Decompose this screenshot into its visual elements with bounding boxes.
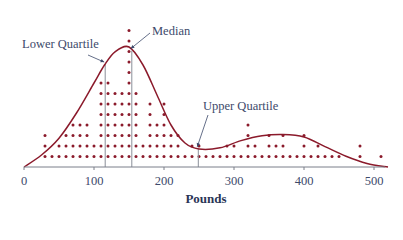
data-dot <box>65 145 68 148</box>
data-dot <box>100 82 103 85</box>
data-dot <box>100 103 103 106</box>
data-dot <box>177 145 180 148</box>
data-dot <box>107 134 110 137</box>
data-dot <box>240 155 243 158</box>
data-dot <box>247 124 250 127</box>
median-label: Median <box>152 24 190 39</box>
data-dot <box>282 145 285 148</box>
data-dot <box>107 155 110 158</box>
x-tick-label: 500 <box>365 174 384 189</box>
data-dot <box>163 145 166 148</box>
data-dot <box>65 155 68 158</box>
annotation-arrow-line <box>197 115 208 147</box>
data-dot <box>219 155 222 158</box>
data-dot <box>303 145 306 148</box>
data-dot <box>149 145 152 148</box>
data-dot <box>380 155 383 158</box>
data-dot <box>72 124 75 127</box>
data-dot <box>79 134 82 137</box>
data-dot <box>212 155 215 158</box>
data-dot <box>100 124 103 127</box>
data-dot <box>114 113 117 116</box>
data-dot <box>128 50 131 53</box>
data-dot <box>317 145 320 148</box>
data-dot <box>163 124 166 127</box>
data-dot <box>233 145 236 148</box>
data-dot <box>156 145 159 148</box>
data-dot <box>79 124 82 127</box>
x-tick-label: 100 <box>85 174 104 189</box>
data-dot <box>93 155 96 158</box>
data-dot <box>156 155 159 158</box>
data-dot <box>226 155 229 158</box>
data-dot <box>317 155 320 158</box>
data-dot <box>121 92 124 95</box>
data-dot <box>170 145 173 148</box>
x-axis-label: Pounds <box>185 191 226 207</box>
data-dot <box>135 134 138 137</box>
data-dot <box>79 155 82 158</box>
data-dot <box>114 134 117 137</box>
data-dot <box>128 40 131 43</box>
data-dot <box>135 103 138 106</box>
data-dot <box>72 155 75 158</box>
data-dot <box>107 82 110 85</box>
data-dot <box>65 134 68 137</box>
data-dot <box>107 103 110 106</box>
data-dot <box>86 155 89 158</box>
data-dot <box>128 155 131 158</box>
data-dot <box>163 103 166 106</box>
data-dot <box>247 145 250 148</box>
data-dot <box>51 155 54 158</box>
data-dot <box>100 113 103 116</box>
data-dot <box>86 145 89 148</box>
data-dot <box>121 124 124 127</box>
data-dot <box>142 145 145 148</box>
data-dot <box>170 134 173 137</box>
data-dot <box>331 155 334 158</box>
data-dot <box>128 124 131 127</box>
data-dot <box>100 155 103 158</box>
data-dot <box>303 155 306 158</box>
data-dot <box>275 155 278 158</box>
data-dot <box>121 113 124 116</box>
data-dot <box>128 103 131 106</box>
data-dot <box>107 145 110 148</box>
data-dot <box>128 92 131 95</box>
x-tick-label: 400 <box>295 174 314 189</box>
data-dot <box>149 113 152 116</box>
lower-quartile-label: Lower Quartile <box>22 37 99 52</box>
data-dot <box>142 155 145 158</box>
x-tick-label: 300 <box>225 174 244 189</box>
data-dot <box>107 92 110 95</box>
data-dot <box>191 155 194 158</box>
data-dot <box>79 145 82 148</box>
data-dot <box>247 155 250 158</box>
data-dot <box>44 155 47 158</box>
data-dot <box>128 134 131 137</box>
data-dot <box>121 155 124 158</box>
data-dot <box>114 92 117 95</box>
data-dot <box>254 155 257 158</box>
data-dot <box>205 155 208 158</box>
data-dot <box>135 113 138 116</box>
data-dot <box>135 124 138 127</box>
data-dot <box>177 155 180 158</box>
data-dot <box>128 113 131 116</box>
x-tick-label: 0 <box>21 174 27 189</box>
data-dot <box>121 134 124 137</box>
data-dot <box>100 92 103 95</box>
data-dot <box>128 61 131 64</box>
data-dot <box>135 155 138 158</box>
data-dot <box>324 155 327 158</box>
data-dot <box>72 145 75 148</box>
data-dot <box>149 124 152 127</box>
data-dot <box>184 155 187 158</box>
data-dot <box>149 134 152 137</box>
data-dot <box>107 124 110 127</box>
data-dot <box>93 145 96 148</box>
data-dot <box>338 155 341 158</box>
data-dot <box>261 155 264 158</box>
data-dot <box>121 145 124 148</box>
data-dot <box>170 155 173 158</box>
